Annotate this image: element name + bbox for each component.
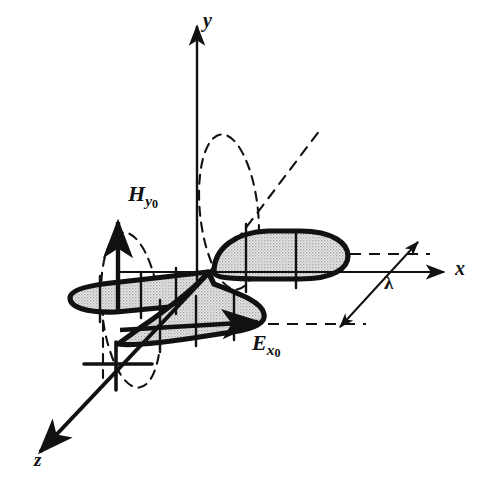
wave-diagram-figure: y x z λ Hy0 Ex0 bbox=[0, 0, 491, 494]
wavelength-label: λ bbox=[384, 273, 393, 292]
e-field-label: Ex0 bbox=[252, 332, 280, 359]
e-field-subscript-zero: 0 bbox=[274, 346, 280, 360]
diagram-canvas bbox=[0, 0, 491, 494]
axis-label-x: x bbox=[455, 258, 465, 278]
axis-label-z: z bbox=[34, 450, 41, 469]
axis-label-y: y bbox=[203, 10, 212, 30]
z-axis-tick bbox=[84, 342, 152, 390]
h-field-symbol: H bbox=[128, 181, 145, 206]
h-field-subscript: y bbox=[145, 192, 152, 209]
h-field-subscript-zero: 0 bbox=[152, 197, 158, 211]
e-field-symbol: E bbox=[252, 330, 267, 355]
h-field-label: Hy0 bbox=[128, 183, 158, 210]
